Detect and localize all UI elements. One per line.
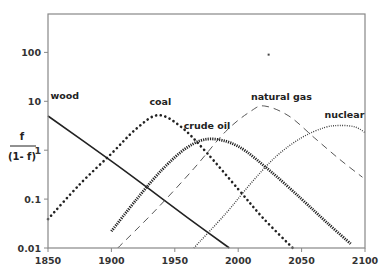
series-coal bbox=[48, 115, 293, 248]
annotations bbox=[268, 54, 270, 56]
label-nuclear: nuclear bbox=[324, 109, 364, 120]
label-natural-gas: natural gas bbox=[251, 91, 312, 102]
x-tick-label: 2050 bbox=[288, 255, 315, 266]
label-wood: wood bbox=[51, 90, 80, 101]
y-label-numerator: f bbox=[20, 131, 25, 142]
y-tick-label: 10 bbox=[28, 96, 42, 107]
series-nuclear bbox=[194, 125, 365, 248]
x-tick-label: 2000 bbox=[225, 255, 252, 266]
x-tick-label: 2100 bbox=[352, 255, 379, 266]
x-axis: 185019001950200020502100 bbox=[35, 248, 379, 266]
y-tick-label: 0.1 bbox=[24, 194, 41, 205]
series-wood bbox=[48, 116, 229, 248]
stray-dot bbox=[268, 54, 270, 56]
y-axis-label: f (1- f) bbox=[8, 131, 36, 162]
x-tick-label: 1900 bbox=[98, 255, 125, 266]
series-crude-oil bbox=[111, 139, 351, 244]
y-tick-label: 0.01 bbox=[18, 243, 41, 254]
x-tick-label: 1950 bbox=[162, 255, 189, 266]
label-crude-oil: crude oil bbox=[184, 120, 231, 131]
y-label-denominator: (1- f) bbox=[8, 151, 36, 162]
series-labels: woodcoalcrude oilnatural gasnuclear bbox=[51, 90, 365, 131]
label-coal: coal bbox=[149, 96, 171, 107]
logistic-substitution-chart: 185019001950200020502100 0.010.1110100 w… bbox=[0, 0, 385, 279]
x-tick-label: 1850 bbox=[35, 255, 62, 266]
y-tick-label: 100 bbox=[21, 47, 41, 58]
